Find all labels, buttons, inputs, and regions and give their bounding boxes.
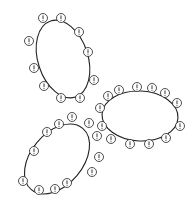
marker-circle-icon (104, 92, 113, 101)
marker-circle-icon (115, 86, 124, 95)
marker-circle-icon (85, 119, 94, 128)
marker-circle-icon (55, 120, 64, 129)
marker-circle-icon (43, 128, 52, 137)
marker-circle-icon (145, 140, 154, 149)
marker-circle-icon (126, 140, 135, 149)
marker-circle-icon (75, 28, 84, 37)
marker-circle-icon (93, 132, 102, 141)
marker-circle-icon (148, 84, 157, 93)
marker-circle-icon (84, 48, 93, 57)
marker-circle-icon (25, 37, 34, 46)
right-loop (96, 83, 185, 149)
marker-circle-icon (57, 94, 66, 103)
marker-circle-icon (107, 135, 116, 144)
marker-circle-icon (40, 82, 49, 91)
marker-circle-icon (76, 94, 85, 103)
bottom-left-loop (11, 112, 103, 207)
top-left-loop (25, 13, 100, 105)
marker-circle-icon (63, 179, 72, 188)
marker-circle-icon (39, 14, 48, 23)
marker-circle-icon (173, 99, 182, 108)
marker-circle-icon (30, 64, 39, 73)
marker-circle-icon (68, 113, 77, 122)
diagram-canvas (0, 0, 195, 208)
marker-circle-icon (98, 122, 107, 131)
marker-circle-icon (96, 104, 105, 113)
marker-circle-icon (161, 89, 170, 98)
marker-circle-icon (19, 177, 28, 186)
marker-circle-icon (133, 83, 142, 92)
marker-circle-icon (35, 186, 44, 195)
marker-circle-icon (57, 14, 66, 23)
marker-circle-icon (95, 153, 104, 162)
marker-circle-icon (30, 147, 39, 156)
marker-circle-icon (88, 168, 97, 177)
marker-circle-icon (162, 134, 171, 143)
loop-outline (27, 13, 99, 105)
marker-circle-icon (51, 185, 60, 194)
marker-circle-icon (90, 76, 99, 85)
loops-diagram (0, 0, 195, 208)
marker-circle-icon (176, 122, 185, 131)
